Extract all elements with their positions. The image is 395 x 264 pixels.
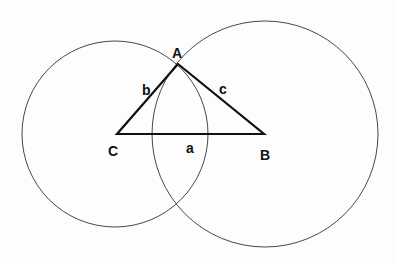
vertex-label-c: C <box>108 143 118 159</box>
vertex-label-a: A <box>172 45 182 61</box>
side-label-a: a <box>186 140 194 156</box>
side-label-b: b <box>142 82 151 98</box>
diagram-canvas: A B C a b c <box>0 0 395 264</box>
side-label-c: c <box>219 81 227 97</box>
diagram-svg: A B C a b c <box>0 0 395 264</box>
triangle-abc <box>117 64 264 134</box>
vertex-label-b: B <box>260 147 270 163</box>
